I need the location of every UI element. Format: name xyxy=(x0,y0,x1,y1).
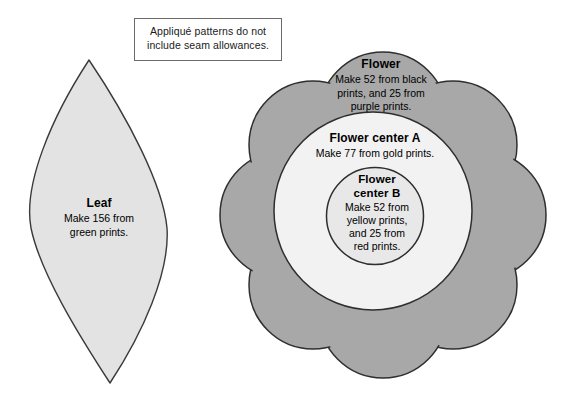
flower-center-b-instruction-line-1: Make 52 from xyxy=(333,201,421,214)
flower-center-b-instruction-line-4: red prints. xyxy=(333,240,421,253)
flower-center-b-instruction-line-3: and 25 from xyxy=(333,227,421,240)
pattern-sheet: Appliqué patterns do not include seam al… xyxy=(0,0,571,406)
flower-instruction-line-2: prints, and 25 from xyxy=(306,87,456,100)
note-line-1: Appliqué patterns do not xyxy=(150,25,266,37)
flower-center-b-title-line-2: center B xyxy=(333,186,421,200)
note-line-2: include seam allowances. xyxy=(147,39,269,51)
flower-instruction-line-1: Make 52 from black xyxy=(306,73,456,86)
flower-center-b-title-line-1: Flower xyxy=(333,172,421,186)
flower-title: Flower xyxy=(306,57,456,72)
leaf-instruction-line-1: Make 156 from xyxy=(35,212,163,225)
flower-instruction-line-3: purple prints. xyxy=(306,100,456,113)
seam-allowance-note: Appliqué patterns do not include seam al… xyxy=(134,18,282,61)
leaf-instruction-line-2: green prints. xyxy=(35,226,163,239)
flower-center-a-label: Flower center A Make 77 from gold prints… xyxy=(289,131,461,161)
flower-center-b-label: Flower center B Make 52 from yellow prin… xyxy=(333,172,421,253)
flower-center-a-title: Flower center A xyxy=(289,131,461,146)
leaf-label: Leaf Make 156 from green prints. xyxy=(35,196,163,239)
flower-center-b-instruction-line-2: yellow prints, xyxy=(333,214,421,227)
flower-label: Flower Make 52 from black prints, and 25… xyxy=(306,57,456,114)
flower-center-a-instruction-line-1: Make 77 from gold prints. xyxy=(289,147,461,160)
leaf-title: Leaf xyxy=(35,196,163,211)
